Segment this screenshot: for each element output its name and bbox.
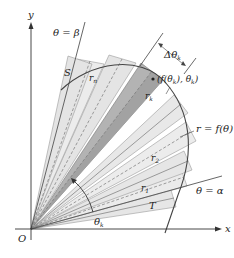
delta-theta-tick-left — [140, 33, 163, 66]
origin-label: O — [18, 233, 26, 244]
y-axis-arrow-icon — [29, 22, 34, 29]
y-axis-label: y — [27, 9, 34, 20]
point-label-leader — [166, 87, 170, 94]
delta-theta-arrow-right-icon — [181, 61, 186, 66]
x-axis-arrow-icon — [215, 227, 222, 232]
theta-alpha-label: θ = α — [196, 185, 224, 196]
point-f-theta-k — [151, 77, 154, 80]
polar-area-diagram: y x O θ = β θ = α r = f(θ) S T rn rk r2 … — [0, 0, 234, 258]
delta-theta-tick-right — [184, 58, 196, 74]
x-axis-label: x — [225, 223, 231, 234]
delta-theta-arrow-left-icon — [158, 43, 163, 48]
point-S-label: S — [64, 67, 71, 78]
delta-theta-label: Δθk — [163, 49, 181, 61]
theta-beta-label: θ = β — [53, 27, 80, 38]
point-coord-label: (f(θk), θk) — [157, 74, 199, 85]
curve-label: r = f(θ) — [196, 123, 233, 134]
